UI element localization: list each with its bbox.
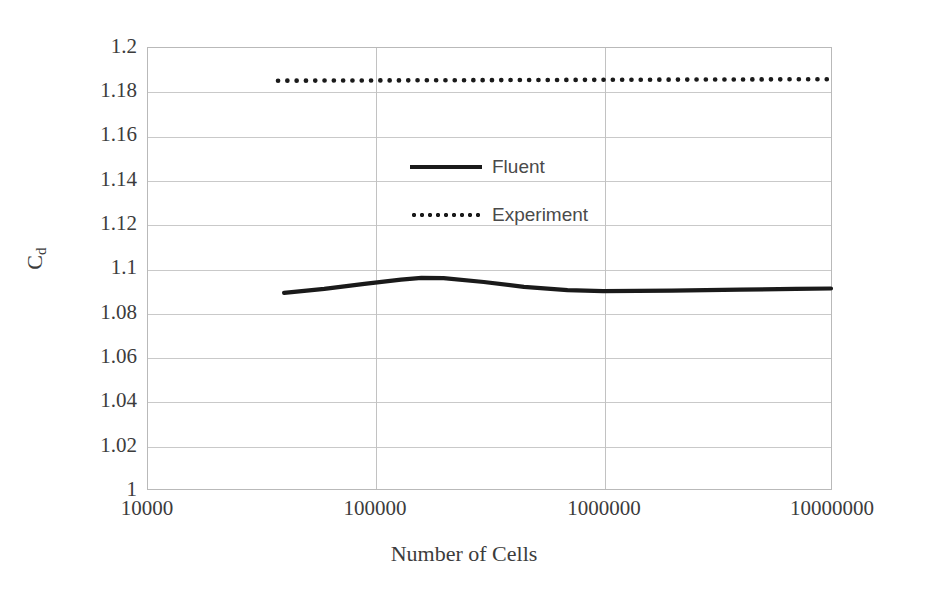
y-tick-label: 1 (0, 479, 137, 500)
x-axis-ticks: 10000 100000 1000000 10000000 (0, 498, 928, 538)
y-tick-label: 1.06 (0, 346, 137, 367)
gridline-vertical (376, 48, 377, 489)
y-tick-label: 1.16 (0, 124, 137, 145)
plot-area (147, 47, 832, 490)
x-tick-label: 100000 (344, 498, 407, 519)
gridline-horizontal (148, 447, 831, 448)
y-axis-title: Cd (22, 229, 49, 289)
gridline-horizontal (148, 402, 831, 403)
y-tick-label: 1.12 (0, 213, 137, 234)
legend: Fluent Experiment (410, 143, 710, 239)
y-tick-label: 1.2 (0, 36, 137, 57)
gridline-horizontal (148, 137, 831, 138)
gridline-horizontal (148, 92, 831, 93)
y-tick-label: 1.04 (0, 390, 137, 411)
y-tick-label: 1.14 (0, 169, 137, 190)
y-tick-label: 1.18 (0, 80, 137, 101)
x-tick-label: 1000000 (567, 498, 641, 519)
y-tick-label: 1.1 (0, 257, 137, 278)
gridline-horizontal (148, 314, 831, 315)
legend-label: Fluent (492, 156, 545, 178)
x-axis-title: Number of Cells (0, 541, 928, 567)
chart-figure: 1.2 1.18 1.16 1.14 1.12 1.1 1.08 1.06 1.… (0, 0, 928, 592)
solid-line-swatch-icon (410, 160, 482, 174)
gridline-horizontal (148, 358, 831, 359)
gridline-horizontal (148, 270, 831, 271)
x-tick-label: 10000000 (790, 498, 874, 519)
legend-label: Experiment (492, 204, 588, 226)
y-tick-label: 1.02 (0, 435, 137, 456)
x-tick-label: 10000 (121, 498, 174, 519)
legend-item-experiment: Experiment (410, 191, 710, 239)
y-axis-title-subscript: d (33, 248, 49, 255)
gridline-vertical (605, 48, 606, 489)
y-axis-title-base: C (22, 255, 47, 270)
dotted-line-swatch-icon (410, 208, 482, 222)
y-tick-label: 1.08 (0, 302, 137, 323)
legend-item-fluent: Fluent (410, 143, 710, 191)
